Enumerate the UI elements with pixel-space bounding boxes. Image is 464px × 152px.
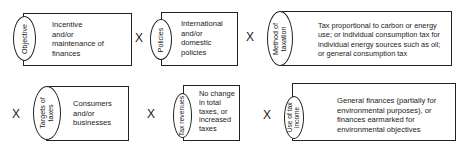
factor-text-objective: Incentive and/or maintenance of finances xyxy=(52,20,104,58)
multiply-operator-4: X xyxy=(147,107,155,121)
factor-label-objective: Objective xyxy=(21,24,29,54)
factor-label-use-of-tax-income: Use of tax income xyxy=(287,103,302,133)
factor-label-ellipse-tax-revenues: Tax revenues xyxy=(173,93,192,138)
multiply-operator-5: X xyxy=(263,108,271,122)
factor-label-ellipse-targets-of-taxes: Targets of taxes xyxy=(33,86,61,140)
factor-label-ellipse-objective: Objective xyxy=(13,16,36,61)
factor-label-ellipse-use-of-tax-income: Use of tax income xyxy=(284,96,304,139)
multiply-operator-2: X xyxy=(246,30,254,44)
factor-label-method-of-taxation: Method of taxation xyxy=(272,23,288,55)
factor-text-use-of-tax-income: General finances (partially for environm… xyxy=(337,96,436,134)
factor-text-method-of-taxation: Tax proportional to carbon or energy use… xyxy=(318,21,440,59)
factor-label-policies: Policies xyxy=(157,27,165,52)
multiply-operator-3: X xyxy=(12,107,20,121)
factor-text-policies: International and/or domestic policies xyxy=(181,19,223,57)
factor-label-targets-of-taxes: Targets of taxes xyxy=(39,97,55,129)
factor-text-targets-of-taxes: Consumers and/or businesses xyxy=(73,99,112,128)
multiply-operator-1: X xyxy=(135,31,143,45)
factor-label-ellipse-policies: Policies xyxy=(150,19,172,60)
factor-label-tax-revenues: Tax revenues xyxy=(179,95,187,135)
factor-text-tax-revenues: No change in total taxes, or increased t… xyxy=(199,90,235,134)
factor-label-ellipse-method-of-taxation: Method of taxation xyxy=(267,11,293,66)
